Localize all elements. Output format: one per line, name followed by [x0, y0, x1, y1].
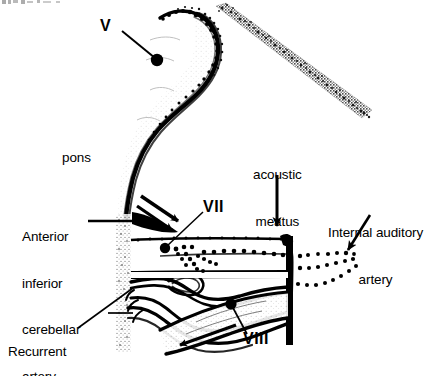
label-pons: pons	[62, 150, 91, 166]
label-rpa-line1: Recurrent	[8, 344, 74, 360]
label-iaa-line1: Internal auditory	[328, 225, 423, 241]
label-vestibulocochlear-nerve: VIII	[243, 331, 269, 347]
v-leader-line	[122, 31, 155, 58]
vii-marker-dot	[160, 243, 170, 253]
label-acoustic-meatus-line2: meatus	[253, 214, 302, 230]
label-internal-auditory-artery: Internal auditory artery	[328, 194, 423, 318]
v-marker-dot	[151, 54, 163, 66]
leader-lines-and-markers	[78, 31, 247, 334]
clivus-bone-band	[116, 214, 131, 352]
cropped-header-remnant	[2, 0, 60, 4]
label-recurrent-penetrating-artery: Recurrent penetrating artery	[8, 313, 74, 376]
label-aica-line1: Anterior	[22, 229, 80, 245]
label-acoustic-meatus-line1: acoustic	[253, 167, 302, 183]
petrous-ridge-band	[216, 3, 372, 118]
label-aica-line2: inferior	[22, 276, 80, 292]
viii-marker-dot	[225, 298, 236, 309]
label-acoustic-meatus: acoustic meatus	[253, 136, 302, 260]
pons-brainstem-outline	[118, 6, 223, 219]
label-iaa-line2: artery	[328, 272, 423, 288]
label-trigeminal-nerve: V	[100, 18, 111, 34]
anatomical-figure: V pons acoustic meatus Anterior inferior…	[0, 0, 446, 376]
label-facial-nerve: VII	[203, 199, 224, 215]
